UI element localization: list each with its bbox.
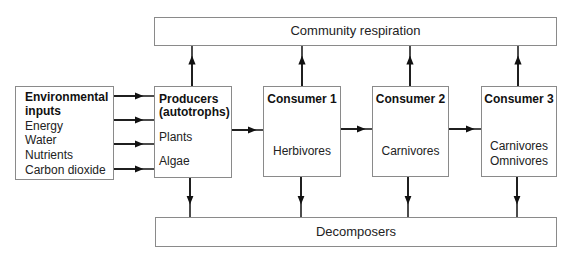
- input-item-energy: Energy: [25, 119, 63, 133]
- consumer3-item-omnivores: Omnivores: [482, 154, 556, 168]
- consumer1-box: Consumer 1 Herbivores: [263, 86, 341, 177]
- environmental-inputs-title-1: Environmental: [25, 90, 108, 104]
- producer-item-algae: Algae: [159, 154, 190, 168]
- consumer2-item-carnivores: Carnivores: [373, 144, 448, 158]
- environmental-inputs-box: Environmental inputs Energy Water Nutrie…: [15, 86, 114, 180]
- producers-title-1: Producers: [159, 92, 218, 106]
- consumer2-box: Consumer 2 Carnivores: [372, 86, 449, 177]
- consumer3-item-carnivores: Carnivores: [482, 139, 556, 153]
- consumer2-title: Consumer 2: [373, 92, 448, 106]
- decomposers-label: Decomposers: [156, 225, 556, 239]
- community-respiration-label: Community respiration: [155, 24, 556, 38]
- consumer3-box: Consumer 3 Carnivores Omnivores: [481, 86, 557, 177]
- consumer3-title: Consumer 3: [482, 92, 556, 106]
- producer-item-plants: Plants: [159, 130, 192, 144]
- decomposers-box: Decomposers: [155, 217, 557, 247]
- community-respiration-box: Community respiration: [154, 17, 557, 46]
- environmental-inputs-title-2: inputs: [25, 104, 61, 118]
- input-item-nutrients: Nutrients: [25, 148, 73, 162]
- input-item-water: Water: [25, 133, 57, 147]
- producers-box: Producers (autotrophs) Plants Algae: [154, 86, 232, 178]
- producers-title-2: (autotrophs): [159, 105, 230, 119]
- input-item-carbon-dioxide: Carbon dioxide: [25, 163, 106, 177]
- consumer1-item-herbivores: Herbivores: [264, 144, 340, 158]
- consumer1-title: Consumer 1: [264, 92, 340, 106]
